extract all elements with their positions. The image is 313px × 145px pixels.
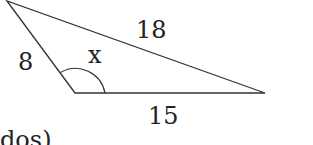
partial-text: dos) [0,128,52,145]
triangle-diagram: 8 x 18 15 dos) [0,0,313,145]
angle-arc [61,68,106,93]
triangle-shape [7,1,265,93]
side-label-hypotenuse: 18 [136,18,167,42]
angle-label: x [88,43,102,67]
side-label-left: 8 [18,50,33,74]
side-label-base: 15 [148,104,179,128]
